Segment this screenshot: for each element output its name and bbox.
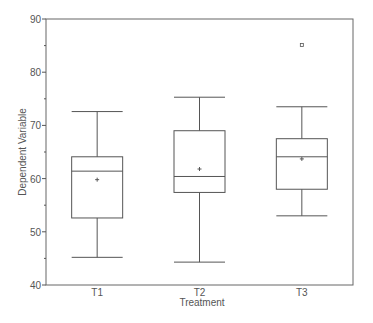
- x-tick-label: T1: [91, 287, 103, 298]
- iqr-box: [72, 157, 123, 218]
- outlier-marker: [300, 44, 303, 47]
- y-tick-label: 60: [30, 174, 42, 185]
- y-axis: 405060708090: [30, 14, 46, 291]
- y-tick-label: 90: [30, 14, 42, 25]
- box-t2: [174, 97, 225, 262]
- y-tick-label: 40: [30, 280, 42, 291]
- boxes: [72, 44, 328, 263]
- y-tick-label: 70: [30, 120, 42, 131]
- x-tick-label: T3: [296, 287, 308, 298]
- iqr-box: [276, 139, 327, 190]
- box-t3: [276, 44, 327, 216]
- x-axis-label: Treatment: [179, 297, 224, 308]
- box-t1: [72, 112, 123, 258]
- y-tick-label: 80: [30, 67, 42, 78]
- y-axis-label: Dependent Variable: [17, 108, 28, 196]
- box-plot-chart: 405060708090 T1T2T3 Treatment Dependent …: [0, 0, 373, 323]
- y-tick-label: 50: [30, 227, 42, 238]
- iqr-box: [174, 131, 225, 193]
